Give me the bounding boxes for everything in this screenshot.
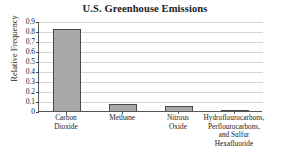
x-tick-label-line: Dioxide xyxy=(32,123,100,132)
bar-series xyxy=(39,22,263,112)
y-tick-label: 0.5 xyxy=(16,58,35,66)
bar-slot xyxy=(207,22,263,112)
y-tick-mark xyxy=(36,22,39,23)
y-tick-mark xyxy=(36,42,39,43)
y-tick-label: 0.7 xyxy=(16,38,35,46)
bar-slot xyxy=(39,22,95,112)
x-tick-label-line: Hexafluoride xyxy=(200,140,268,149)
y-tick-label: 0.6 xyxy=(16,48,35,56)
x-axis-tick-labels: CarbonDioxideMethaneNitrousOxideHydroflo… xyxy=(38,112,262,163)
y-tick-mark xyxy=(36,112,39,113)
y-tick-mark xyxy=(36,62,39,63)
x-tick-label: Hydroflourocarbons,Perflourocarbons,and … xyxy=(200,114,268,148)
y-tick-mark xyxy=(36,52,39,53)
plot-area xyxy=(38,22,262,112)
y-tick-mark xyxy=(36,92,39,93)
y-tick-mark xyxy=(36,102,39,103)
y-tick-label: 0.3 xyxy=(16,78,35,86)
y-tick-label: 0.2 xyxy=(16,88,35,96)
y-axis-tick-labels: 0.90.80.70.60.50.40.30.20.10 xyxy=(16,22,35,112)
bar xyxy=(53,29,81,112)
y-tick-label: 0.9 xyxy=(16,18,35,26)
bar-chart: U.S. Greenhouse Emissions Relative Frequ… xyxy=(0,0,290,163)
bar-slot xyxy=(95,22,151,112)
y-tick-mark xyxy=(36,82,39,83)
y-tick-mark xyxy=(36,32,39,33)
chart-title: U.S. Greenhouse Emissions xyxy=(0,2,290,15)
y-tick-label: 0.8 xyxy=(16,28,35,36)
y-tick-label: 0.4 xyxy=(16,68,35,76)
y-tick-label: 0.1 xyxy=(16,98,35,106)
bar-slot xyxy=(151,22,207,112)
y-tick-mark xyxy=(36,72,39,73)
